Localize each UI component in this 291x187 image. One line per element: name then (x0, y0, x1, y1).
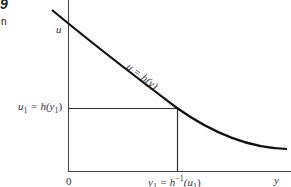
y1-label: y1 = h−1(u1) (148, 174, 201, 187)
y1-paren: (u (184, 176, 193, 187)
y1-eq: = h (157, 176, 175, 187)
inverse-function-diagram (0, 0, 291, 187)
u1-label: u1 = h(y1) (18, 100, 62, 115)
y1-close: ) (197, 176, 201, 187)
u1-eq: = h(y (28, 100, 55, 112)
y-axis-label: y (274, 174, 279, 186)
u-axis-label: u (56, 23, 62, 35)
u1-close: ) (58, 100, 62, 112)
curve-h (52, 10, 287, 149)
origin-label: 0 (66, 175, 72, 187)
y1-sup: −1 (175, 174, 184, 183)
